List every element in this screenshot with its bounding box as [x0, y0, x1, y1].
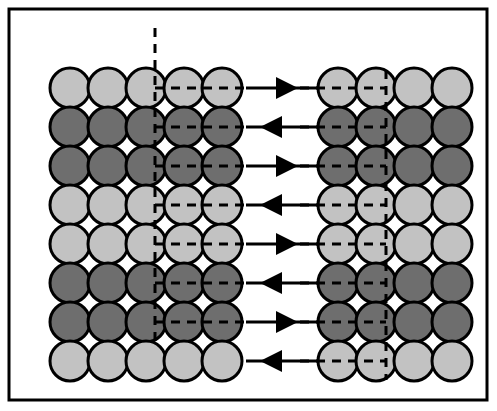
- left-lattice-grid-row-8: [50, 341, 242, 381]
- lattice-atom-circle: [164, 263, 204, 303]
- left-lattice-grid-row-7: [50, 302, 242, 342]
- lattice-atom-circle: [50, 341, 90, 381]
- lattice-atom-circle: [126, 341, 166, 381]
- lattice-atom-circle: [88, 263, 128, 303]
- lattice-atom-circle: [394, 263, 434, 303]
- lattice-atom-circle: [432, 302, 472, 342]
- lattice-atom-circle: [88, 68, 128, 108]
- lattice-atom-circle: [432, 107, 472, 147]
- lattice-atom-circle: [432, 146, 472, 186]
- lattice-atom-circle: [88, 107, 128, 147]
- lattice-atom-circle: [50, 146, 90, 186]
- lattice-atom-circle: [356, 68, 396, 108]
- lattice-atom-circle: [50, 302, 90, 342]
- lattice-atom-circle: [88, 341, 128, 381]
- figure-canvas: [0, 0, 497, 411]
- lattice-atom-circle: [356, 302, 396, 342]
- lattice-atom-circle: [164, 341, 204, 381]
- lattice-atom-circle: [432, 341, 472, 381]
- lattice-atom-circle: [164, 185, 204, 225]
- lattice-atom-circle: [50, 107, 90, 147]
- left-lattice-grid-row-1: [50, 68, 242, 108]
- lattice-atom-circle: [164, 302, 204, 342]
- lattice-atom-circle: [356, 263, 396, 303]
- lattice-atom-circle: [202, 341, 242, 381]
- left-lattice-grid-row-5: [50, 224, 242, 264]
- lattice-atom-circle: [356, 341, 396, 381]
- lattice-atom-circle: [356, 107, 396, 147]
- lattice-atom-circle: [394, 224, 434, 264]
- left-lattice-grid: [50, 68, 242, 381]
- left-lattice-grid-row-3: [50, 146, 242, 186]
- lattice-atom-circle: [356, 146, 396, 186]
- lattice-atom-circle: [50, 224, 90, 264]
- lattice-atom-circle: [394, 341, 434, 381]
- lattice-atom-circle: [164, 107, 204, 147]
- lattice-atom-circle: [394, 302, 434, 342]
- lattice-atom-circle: [394, 185, 434, 225]
- lattice-atom-circle: [50, 68, 90, 108]
- lattice-atom-circle: [50, 263, 90, 303]
- lattice-atom-circle: [50, 185, 90, 225]
- lattice-atom-circle: [164, 68, 204, 108]
- lattice-atom-circle: [432, 224, 472, 264]
- lattice-atom-circle: [356, 224, 396, 264]
- lattice-atom-circle: [88, 302, 128, 342]
- left-lattice-grid-row-2: [50, 107, 242, 147]
- lattice-atom-circle: [432, 263, 472, 303]
- lattice-atom-circle: [432, 68, 472, 108]
- lattice-atom-circle: [164, 146, 204, 186]
- lattice-atom-circle: [356, 185, 396, 225]
- lattice-atom-circle: [394, 68, 434, 108]
- left-lattice-grid-row-4: [50, 185, 242, 225]
- lattice-atom-circle: [88, 185, 128, 225]
- left-lattice-grid-row-6: [50, 263, 242, 303]
- lattice-atom-circle: [88, 224, 128, 264]
- lattice-atom-circle: [88, 146, 128, 186]
- schematic-svg: [0, 0, 497, 411]
- lattice-atom-circle: [394, 107, 434, 147]
- lattice-atom-circle: [394, 146, 434, 186]
- lattice-atom-circle: [164, 224, 204, 264]
- lattice-atom-circle: [432, 185, 472, 225]
